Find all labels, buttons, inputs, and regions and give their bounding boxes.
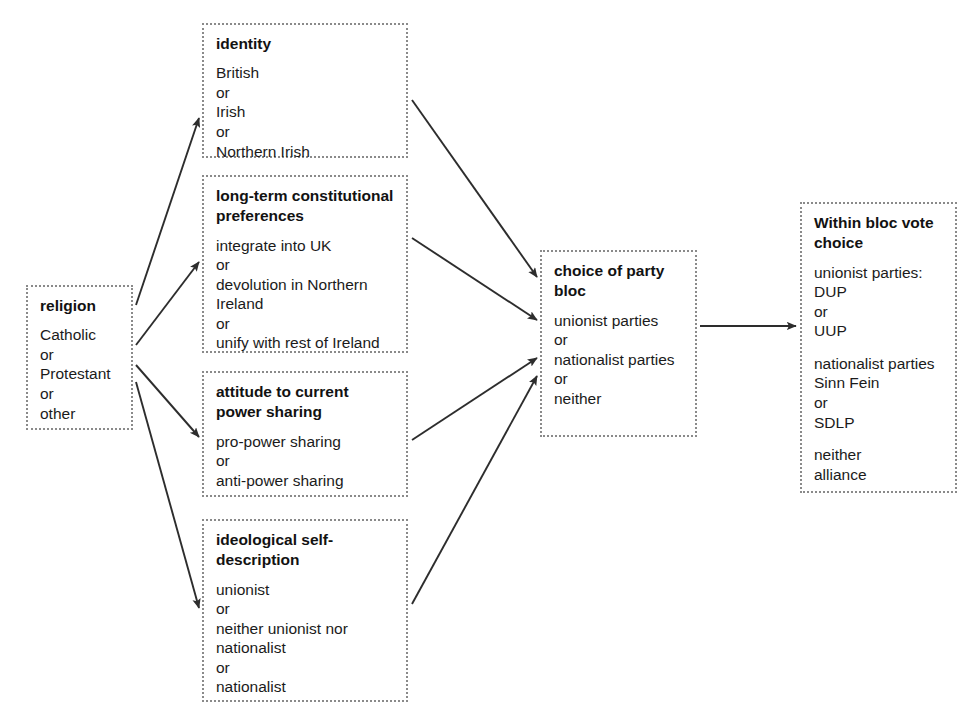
- node-constitutional-preferences-options: integrate into UK or devolution in North…: [216, 236, 396, 353]
- node-within-bloc-neither-options: neither alliance: [814, 445, 945, 484]
- edge-constitutional-preferences-to-party-bloc: [412, 238, 537, 320]
- edge-religion-to-ideological-self-description: [136, 382, 199, 608]
- node-power-sharing-options: pro-power sharing or anti-power sharing: [216, 432, 396, 491]
- diagram-canvas: religion Catholic or Protestant or other…: [0, 0, 972, 728]
- node-religion-options: Catholic or Protestant or other: [40, 325, 121, 423]
- node-religion-title: religion: [40, 296, 121, 316]
- node-ideological-self-description[interactable]: ideological self- description unionist o…: [202, 519, 408, 702]
- edge-power-sharing-to-party-bloc: [412, 358, 537, 440]
- node-identity-title: identity: [216, 34, 396, 54]
- node-party-bloc-title: choice of party bloc: [554, 261, 685, 302]
- node-party-bloc[interactable]: choice of party bloc unionist parties or…: [540, 250, 697, 437]
- node-constitutional-preferences-title: long-term constitutional preferences: [216, 186, 396, 227]
- node-identity-options: British or Irish or Northern Irish: [216, 63, 396, 161]
- node-identity[interactable]: identity British or Irish or Northern Ir…: [202, 23, 408, 158]
- node-ideological-self-description-options: unionist or neither unionist nor nationa…: [216, 580, 396, 697]
- node-constitutional-preferences[interactable]: long-term constitutional preferences int…: [202, 175, 408, 353]
- node-within-bloc-nationalist-options: nationalist parties Sinn Fein or SDLP: [814, 354, 945, 432]
- node-within-bloc-title: Within bloc vote choice: [814, 213, 945, 254]
- edge-religion-to-constitutional-preferences: [136, 262, 199, 345]
- node-party-bloc-options: unionist parties or nationalist parties …: [554, 311, 685, 409]
- node-within-bloc[interactable]: Within bloc vote choice unionist parties…: [800, 202, 957, 493]
- edge-ideological-self-description-to-party-bloc: [412, 376, 537, 604]
- edge-religion-to-identity: [136, 118, 199, 305]
- edge-identity-to-party-bloc: [412, 100, 537, 277]
- edge-religion-to-power-sharing: [136, 365, 199, 437]
- node-religion[interactable]: religion Catholic or Protestant or other: [26, 285, 133, 430]
- node-ideological-self-description-title: ideological self- description: [216, 530, 396, 571]
- node-power-sharing[interactable]: attitude to current power sharing pro-po…: [202, 371, 408, 497]
- node-power-sharing-title: attitude to current power sharing: [216, 382, 396, 423]
- node-within-bloc-unionist-options: unionist parties: DUP or UUP: [814, 263, 945, 341]
